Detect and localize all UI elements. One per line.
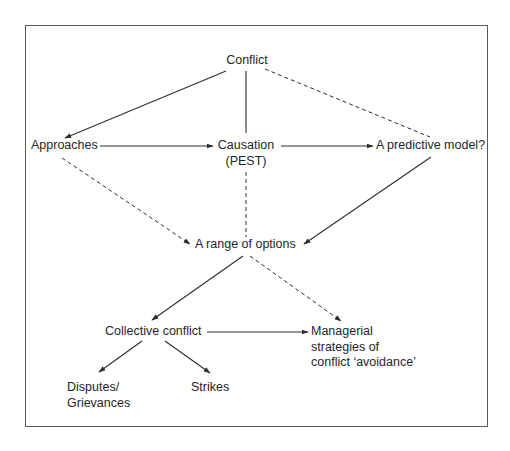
node-conflict: Conflict <box>220 53 274 69</box>
node-range-of-options-label: A range of options <box>195 237 296 253</box>
node-disputes-grievances-line2: Grievances <box>67 396 130 412</box>
node-disputes-grievances-line1: Disputes/ <box>67 380 130 396</box>
node-managerial-strategies-line1: Managerial <box>311 324 416 340</box>
node-approaches-label: Approaches <box>31 138 98 154</box>
node-collective-conflict: Collective conflict <box>105 324 202 340</box>
edge-range-collective-conflict <box>152 256 243 320</box>
node-strikes: Strikes <box>191 380 229 396</box>
edge-predictive-model-range-of-options <box>304 157 431 244</box>
node-predictive-model-label: A predictive model? <box>376 138 485 154</box>
node-managerial-strategies-line2: strategies of <box>311 340 416 356</box>
node-managerial-strategies-line3: conflict ‘avoidance’ <box>311 355 416 371</box>
edge-collective-disputes <box>99 341 142 372</box>
node-predictive-model: A predictive model? <box>376 138 485 154</box>
edge-approaches-range-of-options <box>62 158 190 244</box>
node-range-of-options: A range of options <box>195 237 296 253</box>
node-approaches: Approaches <box>31 138 98 154</box>
node-causation: Causation (PEST) <box>214 138 278 169</box>
node-collective-conflict-label: Collective conflict <box>105 324 202 340</box>
node-disputes-grievances: Disputes/ Grievances <box>67 380 130 411</box>
node-causation-line1: Causation <box>214 138 278 154</box>
node-strikes-label: Strikes <box>191 380 229 396</box>
edge-range-managerial-strategies <box>250 256 341 321</box>
node-conflict-label: Conflict <box>220 53 274 69</box>
edge-conflict-predictive-model <box>265 69 430 137</box>
node-managerial-strategies: Managerial strategies of conflict ‘avoid… <box>311 324 416 371</box>
edge-collective-strikes <box>165 341 210 373</box>
node-causation-line2: (PEST) <box>214 154 278 170</box>
edge-conflict-approaches <box>65 71 226 138</box>
